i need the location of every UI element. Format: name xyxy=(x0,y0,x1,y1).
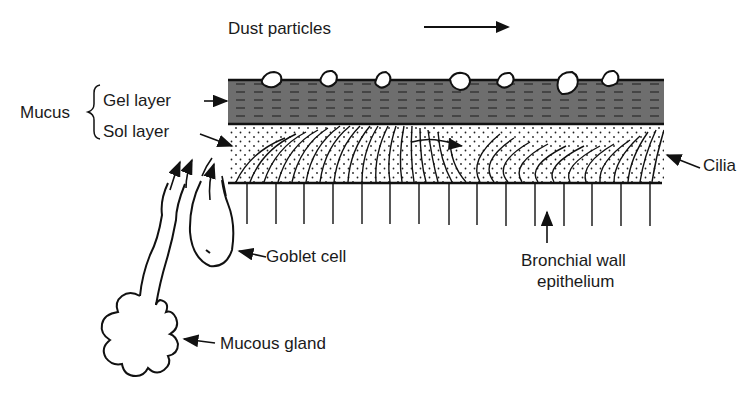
sol-layer-arrow xyxy=(200,134,232,146)
diagram-canvas xyxy=(0,0,747,402)
goblet-cell-arrow xyxy=(239,251,266,257)
mucous-gland-arrow xyxy=(184,339,215,343)
goblet-secretion-arrow xyxy=(210,164,215,200)
goblet-cell xyxy=(190,180,233,266)
gel-layer xyxy=(228,80,664,124)
mucous-gland xyxy=(102,183,185,376)
bronchial-wall-label-line2: epithelium xyxy=(537,273,615,290)
cilia-label: Cilia xyxy=(703,157,736,174)
bronchial-wall-epithelium xyxy=(228,183,662,226)
gel-layer-label: Gel layer xyxy=(103,92,171,109)
goblet-cell-label: Goblet cell xyxy=(266,248,346,265)
mucociliary-diagram: Dust particles Mucus Gel layer Sol layer… xyxy=(0,0,747,402)
mucus-brace xyxy=(88,85,100,139)
mucus-label: Mucus xyxy=(20,104,70,121)
dust-particles-label: Dust particles xyxy=(228,20,331,37)
gland-secretion-arrow xyxy=(186,160,192,188)
secretion-arrows xyxy=(170,158,226,200)
flow-direction-arrow xyxy=(424,21,510,33)
bronchial-wall-label-line1: Bronchial wall xyxy=(521,252,626,269)
cilia-arrow xyxy=(667,155,700,168)
sol-layer-label: Sol layer xyxy=(103,123,169,140)
mucous-gland-label: Mucous gland xyxy=(220,335,326,352)
